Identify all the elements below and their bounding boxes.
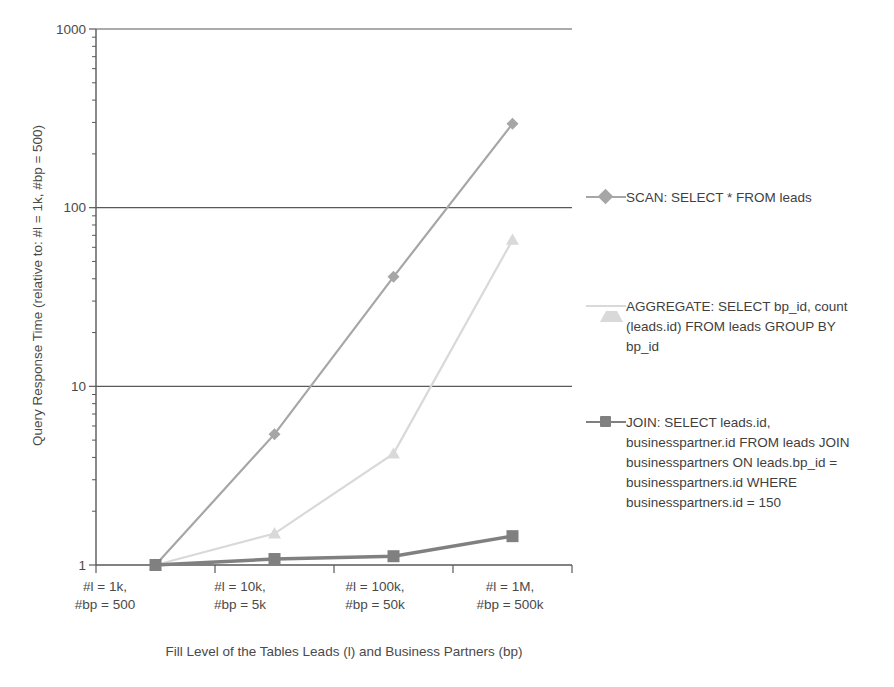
legend-label-line: businesspartners ON leads.bp_id = [626,453,850,473]
x-tick-3-line1: #l = 1M, [430,578,590,596]
triangle-marker [586,297,626,314]
legend-item-2[interactable]: JOIN: SELECT leads.id,businesspartner.id… [586,413,886,513]
data-point-marker [268,527,281,538]
legend-label-line: JOIN: SELECT leads.id, [626,413,850,433]
data-series [149,118,519,571]
legend-symbol [600,416,611,427]
axis-lines [96,29,572,565]
x-tick-3: #l = 1M, #bp = 500k [430,578,590,614]
data-point-marker [506,233,519,244]
legend-label-line: businesspartner.id FROM leads JOIN [626,433,850,453]
x-axis-title: Fill Level of the Tables Leads (l) and B… [88,644,600,659]
legend-label-line: SCAN: SELECT * FROM leads [626,188,812,208]
data-point-marker [507,530,519,542]
data-point-marker [269,553,281,565]
legend-label-1: AGGREGATE: SELECT bp_id, count(leads.id)… [626,297,848,357]
legend-label-line: AGGREGATE: SELECT bp_id, count [626,297,848,317]
data-point-marker [150,559,162,571]
series-line-0 [156,124,513,565]
chart-legend: SCAN: SELECT * FROM leadsAGGREGATE: SELE… [586,0,886,687]
legend-label-line: (leads.id) FROM leads GROUP BY [626,317,848,337]
legend-label-line: bp_id [626,337,848,357]
legend-item-1[interactable]: AGGREGATE: SELECT bp_id, count(leads.id)… [586,297,886,357]
legend-item-0[interactable]: SCAN: SELECT * FROM leads [586,188,886,208]
series-line-1 [156,240,513,565]
square-marker [586,413,626,430]
data-point-marker [388,550,400,562]
legend-symbol [600,300,623,322]
data-point-marker [387,447,400,458]
legend-label-2: JOIN: SELECT leads.id,businesspartner.id… [626,413,850,513]
legend-label-line: businesspartners.id WHERE [626,473,850,493]
legend-symbol [598,189,614,205]
axis-ticks [89,29,572,573]
legend-label-line: businesspartners.id = 150 [626,493,850,513]
x-tick-3-line2: #bp = 500k [430,596,590,614]
diamond-marker [586,188,626,205]
legend-label-0: SCAN: SELECT * FROM leads [626,188,812,208]
gridlines [96,29,572,386]
chart-container: Query Response Time (relative to: #l = 1… [0,0,894,687]
